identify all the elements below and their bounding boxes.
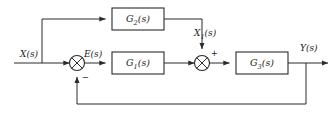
sign-feedback-negative: − xyxy=(82,74,89,82)
block-label-forward: G1(s) xyxy=(112,58,164,70)
summing-junction-feedforward xyxy=(195,56,210,71)
signal-label-error: E(s) xyxy=(84,50,102,59)
block-label-plant: G3(s) xyxy=(236,58,288,70)
block-label-feedforward: G2(s) xyxy=(112,14,164,26)
signal-label-feedforward-output: X1(s) xyxy=(194,29,216,40)
block-diagram-canvas: G2(s) G1(s) G3(s) X(s) E(s) X1(s) Y(s) −… xyxy=(0,0,336,118)
sign-feedforward-positive: + xyxy=(211,50,218,58)
summing-junction-error xyxy=(70,56,85,71)
signal-label-output: Y(s) xyxy=(300,44,318,53)
signal-label-input: X(s) xyxy=(20,50,38,59)
